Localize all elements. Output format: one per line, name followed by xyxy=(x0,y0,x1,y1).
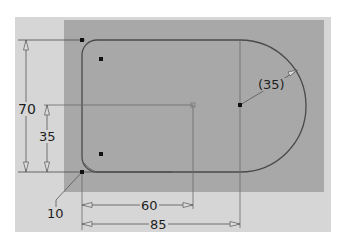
sketch-point[interactable] xyxy=(99,152,103,156)
dim-label-60[interactable]: 60 xyxy=(140,199,159,212)
profile-region xyxy=(64,20,324,192)
dim-label-10[interactable]: 10 xyxy=(47,207,64,220)
sketch-point[interactable] xyxy=(80,170,84,174)
sketch-point[interactable] xyxy=(99,57,103,61)
dim-label-85[interactable]: 85 xyxy=(149,218,168,231)
sketch-point-center[interactable] xyxy=(238,103,242,107)
sketch-point[interactable] xyxy=(80,38,84,42)
dim-label-35[interactable]: 35 xyxy=(39,130,56,143)
dim-label-radius[interactable]: (35) xyxy=(258,78,285,91)
dim-label-70[interactable]: 70 xyxy=(18,102,36,116)
